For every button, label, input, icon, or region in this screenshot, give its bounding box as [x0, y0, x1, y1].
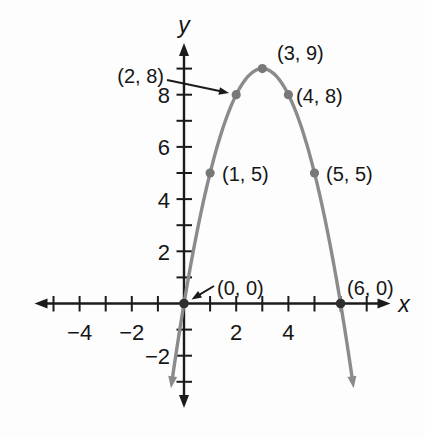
figure-background [0, 0, 425, 438]
parabola-figure: −4−2248642−2xy(0, 0)(1, 5)(2, 8)(3, 9)(4… [0, 0, 425, 438]
x-axis-label: x [397, 291, 411, 317]
x-axis-tick-label: 4 [282, 320, 294, 345]
data-point [206, 168, 215, 177]
x-axis-tick-label: 2 [230, 320, 242, 345]
y-axis-label: y [176, 12, 191, 38]
data-point [310, 168, 319, 177]
point-label: (3, 9) [277, 42, 324, 64]
point-label: (0, 0) [217, 277, 264, 299]
point-label: (2, 8) [117, 65, 164, 87]
data-point [284, 90, 293, 99]
data-point [336, 299, 346, 309]
x-axis-tick-label: −2 [119, 320, 144, 345]
data-point [258, 64, 267, 73]
point-label: (6, 0) [347, 277, 394, 299]
point-label: (5, 5) [326, 163, 373, 185]
y-axis-tick-label: −2 [145, 344, 170, 369]
parabola-plot-svg: −4−2248642−2xy(0, 0)(1, 5)(2, 8)(3, 9)(4… [0, 0, 425, 438]
y-axis-tick-label: 6 [158, 135, 170, 160]
data-point [179, 299, 189, 309]
y-axis-tick-label: 4 [158, 188, 170, 213]
data-point [232, 90, 241, 99]
y-axis-tick-label: 2 [158, 240, 170, 265]
x-axis-tick-label: −4 [67, 320, 92, 345]
point-label: (1, 5) [222, 163, 269, 185]
point-label: (4, 8) [296, 85, 343, 107]
